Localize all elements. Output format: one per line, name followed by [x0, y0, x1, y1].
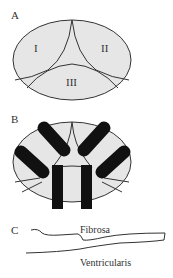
panel-c-label: C [11, 224, 18, 236]
panel-a: A I II III [11, 9, 131, 100]
region-iii-label: III [66, 76, 77, 88]
region-ii-label: II [101, 42, 109, 54]
valve-diagram: A I II III B C Fibrosa Ventricularis [0, 0, 173, 278]
fibrosa-label: Fibrosa [80, 224, 111, 235]
panel-b-label: B [11, 113, 18, 125]
ventricularis-label: Ventricularis [80, 257, 131, 268]
panel-c: C Fibrosa Ventricularis [11, 224, 165, 268]
valve-outline [13, 20, 131, 100]
region-i-label: I [34, 42, 38, 54]
panel-b: B [11, 113, 131, 209]
specimen-strip [52, 165, 63, 209]
panel-a-label: A [11, 9, 19, 21]
specimen-strip [81, 165, 92, 209]
